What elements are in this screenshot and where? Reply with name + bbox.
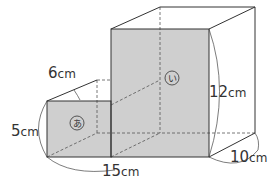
svg-text:い: い <box>168 74 177 84</box>
label-big-height: 12cm <box>209 83 246 101</box>
svg-text:あ: あ <box>73 119 82 129</box>
prism-diagram: 6cm 5cm 15cm 12cm 10cm あ い <box>0 0 275 189</box>
label-small-depth: 6cm <box>48 64 76 82</box>
label-total-width: 15cm <box>102 162 139 180</box>
label-big-depth: 10cm <box>230 148 267 166</box>
small-box-front-face <box>47 101 111 157</box>
label-small-height: 5cm <box>11 122 39 140</box>
